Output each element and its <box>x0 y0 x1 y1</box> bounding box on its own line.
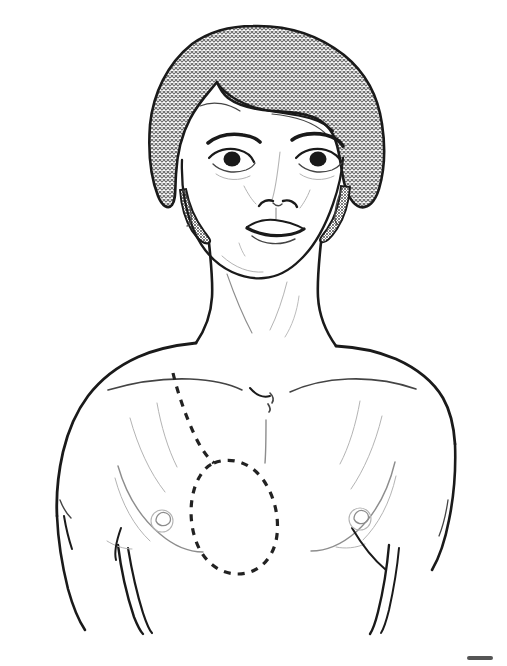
medical-illustration-figure: Anterior view of female torso with dashe… <box>0 0 507 666</box>
eye-left-iris <box>224 152 241 167</box>
page-edge-mark <box>467 656 493 660</box>
eye-right-iris <box>310 152 327 167</box>
illustration-canvas <box>0 0 507 666</box>
